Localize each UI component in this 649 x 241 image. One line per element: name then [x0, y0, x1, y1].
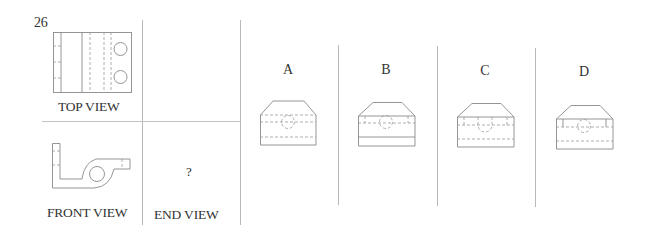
front-view-label: FRONT VIEW: [47, 205, 127, 221]
option-b-drawing: [358, 102, 416, 148]
option-a-drawing: [260, 100, 318, 146]
option-c-letter: C: [470, 63, 500, 79]
top-view-drawing: [53, 32, 133, 94]
end-view-placeholder: ?: [186, 164, 192, 180]
divider-vertical-views: [142, 20, 143, 225]
end-view-label: END VIEW: [154, 207, 219, 223]
divider-option-c: [437, 46, 438, 206]
top-view-label: TOP VIEW: [58, 99, 120, 115]
option-d-letter: D: [569, 64, 599, 80]
option-a-letter: A: [273, 62, 303, 78]
divider-option-d: [535, 48, 536, 207]
question-number: 26: [34, 15, 48, 31]
option-c-drawing: [457, 103, 515, 149]
front-view-drawing: [52, 143, 134, 191]
option-b-letter: B: [371, 62, 401, 78]
divider-vertical-panel: [240, 20, 241, 225]
option-d-drawing: [556, 105, 614, 151]
divider-option-b: [338, 45, 339, 205]
divider-horizontal-views: [42, 121, 240, 122]
